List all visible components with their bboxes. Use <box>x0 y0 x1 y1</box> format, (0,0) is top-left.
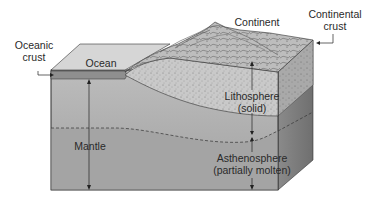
label-asthenosphere: Asthenosphere (partially molten) <box>200 152 304 176</box>
label-mantle: Mantle <box>70 140 110 152</box>
label-oceanic-crust: Oceanic crust <box>6 39 62 63</box>
continental-crust-pointer <box>316 34 333 45</box>
label-asthenosphere-line1: Asthenosphere <box>200 152 304 164</box>
label-lithosphere-line1: Lithosphere <box>212 90 292 102</box>
label-continental-crust-line2: crust <box>302 20 368 32</box>
label-continent: Continent <box>225 16 289 28</box>
label-oceanic-crust-line1: Oceanic <box>6 39 62 51</box>
oceanic-crust-band <box>51 71 127 79</box>
label-continental-crust-line1: Continental <box>302 8 368 20</box>
label-ocean: Ocean <box>78 57 124 69</box>
label-lithosphere: Lithosphere (solid) <box>212 90 292 114</box>
label-lithosphere-line2: (solid) <box>212 102 292 114</box>
label-continental-crust: Continental crust <box>302 8 368 32</box>
label-oceanic-crust-line2: crust <box>6 51 62 63</box>
label-asthenosphere-line2: (partially molten) <box>200 164 304 176</box>
